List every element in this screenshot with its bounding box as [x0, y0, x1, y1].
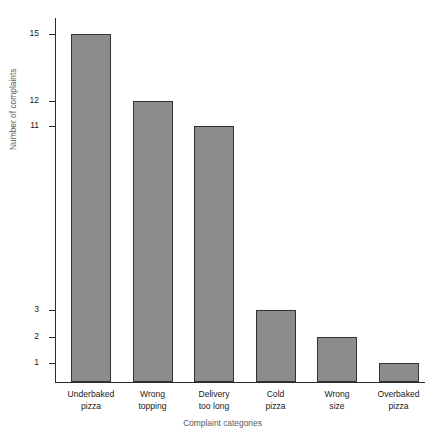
x-tick-label-line: Overbaked — [354, 389, 444, 401]
bar — [71, 34, 111, 382]
x-axis-line — [55, 382, 425, 383]
y-tick-label: 12 — [30, 94, 39, 107]
x-axis-title: Complaint categories — [0, 418, 445, 428]
y-tick-label: 15 — [30, 27, 39, 40]
y-tick-label: 11 — [30, 119, 39, 132]
y-tick-mark — [49, 101, 56, 102]
y-tick-label: 3 — [34, 303, 39, 316]
y-tick-mark — [49, 34, 56, 35]
bar — [194, 126, 234, 382]
y-tick-label: 2 — [34, 330, 39, 343]
y-tick-mark — [49, 126, 56, 127]
y-tick-mark — [49, 337, 56, 338]
y-tick-mark — [49, 310, 56, 311]
bar — [379, 363, 419, 382]
y-axis-line — [55, 18, 56, 383]
bar-chart: 151211321 UnderbakedpizzaWrongtoppingDel… — [0, 0, 445, 447]
bar — [317, 337, 357, 382]
x-tick-label-line: pizza — [354, 401, 444, 413]
bar — [256, 310, 296, 382]
y-axis-title: Number of complaints — [8, 136, 18, 150]
y-tick-mark — [49, 363, 56, 364]
y-tick-label: 1 — [34, 356, 39, 369]
bar — [133, 101, 173, 382]
x-tick-label: Overbakedpizza — [354, 389, 444, 412]
